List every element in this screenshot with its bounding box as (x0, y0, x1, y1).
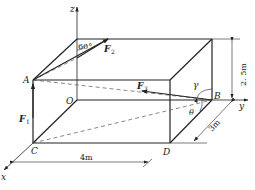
svg-text:1: 1 (26, 118, 30, 125)
point-a-label: A (22, 75, 30, 85)
y-axis-label: y (238, 101, 245, 111)
x-axis (4, 143, 33, 170)
angle-arc-gamma (197, 89, 212, 98)
point-d-label: D (162, 147, 170, 157)
f3-label: F 3 (136, 81, 148, 92)
f1-label: F 1 (18, 114, 30, 125)
height-dimension-label: 2. 5m (239, 63, 248, 86)
box-force-diagram: z y x A O B C D 60° γ θ F 2 F 3 F 1 4m 3… (0, 0, 255, 190)
angle-arc-theta (200, 100, 202, 111)
point-c-label: C (31, 146, 38, 156)
x-axis-label: x (1, 172, 6, 182)
z-axis-label: z (69, 4, 75, 14)
box-edges (33, 39, 212, 143)
force-f3 (142, 91, 212, 100)
angle-60-label: 60° (78, 42, 92, 51)
point-b-label: B (213, 91, 221, 101)
angle-theta-label: θ (189, 108, 194, 117)
point-o-label: O (66, 96, 74, 106)
width-dimension-label: 4m (80, 153, 93, 162)
svg-text:F: F (103, 44, 111, 54)
depth-dimension-label: 3m (207, 118, 222, 134)
svg-text:F: F (18, 114, 26, 124)
angle-gamma-label: γ (193, 80, 199, 90)
svg-text:F: F (136, 81, 144, 91)
svg-text:2: 2 (111, 48, 115, 55)
f2-label: F 2 (103, 44, 115, 55)
dimension-height (212, 39, 240, 98)
svg-text:3: 3 (144, 85, 148, 92)
